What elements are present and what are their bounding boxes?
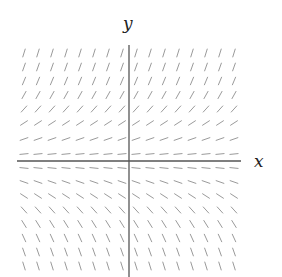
slope-segment [22,77,25,85]
slope-segment [118,194,126,199]
slope-segment [177,262,180,271]
slope-segment [135,262,138,271]
slope-segment [50,63,53,71]
slope-segment [232,63,235,71]
slope-segment [50,77,53,85]
slope-segment [190,77,193,85]
slope-segment [92,248,95,256]
slope-segment [23,262,26,271]
slope-segment [63,106,69,113]
slope-segment [64,63,67,71]
slope-segment [76,154,85,155]
slope-segment [49,207,55,214]
slope-segment [160,154,169,155]
slope-segment [36,248,39,256]
slope-segment [62,154,71,155]
slope-segment [174,194,182,199]
slope-segment [106,234,110,242]
slope-segment [48,194,56,199]
slope-segment [176,248,179,256]
slope-segment [218,234,222,242]
slope-segment [188,154,197,155]
slope-segment [62,168,71,169]
slope-segment [63,207,69,214]
slope-segment [34,154,43,155]
slope-segment [90,181,99,184]
slope-segment [216,121,224,126]
slope-segment [50,234,54,242]
slope-segment [204,248,207,256]
slope-segment [146,181,155,184]
slope-segment [48,181,57,184]
slope-segment [64,220,69,228]
slope-segment [118,121,126,126]
slope-segment [20,121,28,126]
slope-segment [35,207,41,214]
slope-segment [232,77,235,85]
slope-segment [190,220,195,228]
slope-segment [106,248,109,256]
slope-segment [204,220,209,228]
slope-segment [160,121,168,126]
slope-segment [64,77,67,85]
slope-segment [121,262,124,271]
slope-segment [119,207,125,214]
slope-segment [93,49,96,58]
slope-segment [160,138,169,141]
slope-segment [230,168,239,169]
slope-segment [132,138,141,141]
slope-segment [78,77,81,85]
slope-segment [106,220,111,228]
slope-segment [48,154,57,155]
slope-segment [176,77,179,85]
slope-segment [36,77,39,85]
slope-segment [177,49,180,58]
slope-segment [162,91,166,99]
slope-segment [105,106,111,113]
slope-segment [202,181,211,184]
slope-segment [132,168,141,169]
slope-segment [118,154,127,155]
slope-segment [92,234,96,242]
slope-segment [76,168,85,169]
slope-segment [148,91,152,99]
slope-segment [203,106,209,113]
slope-segment [174,154,183,155]
slope-segment [92,220,97,228]
slope-segment [34,194,42,199]
slope-segment [105,207,111,214]
x-axis-label: x [254,151,264,171]
slope-segment [78,91,82,99]
slope-segment [118,138,127,141]
slope-segment [76,138,85,141]
slope-segment [188,194,196,199]
slope-segment [120,77,123,85]
slope-segment [77,106,83,113]
slope-segment [190,63,193,71]
slope-segment [218,91,222,99]
slope-segment [174,168,183,169]
slope-segment [20,194,28,199]
slope-segment [34,138,43,141]
slope-segment [132,181,141,184]
slope-segment [107,49,110,58]
slope-segment [174,121,182,126]
slope-segment [91,106,97,113]
slope-segment [50,91,54,99]
slope-segment [175,106,181,113]
slope-segment [50,220,55,228]
slope-segment [176,63,179,71]
slope-segment [134,91,138,99]
slope-segment [36,91,40,99]
slope-segment [232,248,235,256]
slope-segment [65,262,68,271]
slope-segment [160,181,169,184]
slope-segment [216,194,224,199]
slope-segment [104,181,113,184]
slope-segment [106,77,109,85]
slope-segment [148,234,152,242]
slope-segment [204,63,207,71]
slope-segment [49,106,55,113]
slope-segment [204,234,208,242]
slope-segment [160,168,169,169]
